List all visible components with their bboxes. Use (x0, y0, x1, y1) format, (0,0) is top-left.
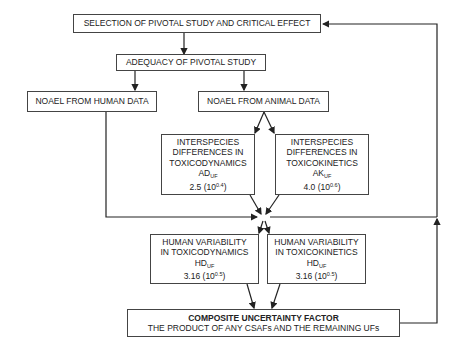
exponent: 0.5 (215, 271, 223, 277)
interspecies-td-line2: DIFFERENCES IN (173, 147, 244, 158)
abbr: AK (313, 168, 324, 178)
human-td-value: 3.16 (100.5) (184, 271, 226, 282)
interspecies-td-line3: TOXICODYNAMICS (169, 158, 246, 169)
selection-box: SELECTION OF PIVOTAL STUDY AND CRITICAL … (73, 14, 321, 33)
value: 3.16 (10 (296, 271, 327, 281)
noael-animal-label: NOAEL FROM ANIMAL DATA (207, 96, 320, 107)
noael-human-box: NOAEL FROM HUMAN DATA (27, 91, 157, 112)
interspecies-td-abbr: ADUF (198, 168, 217, 182)
interspecies-tk-line1: INTERSPECIES (291, 137, 353, 148)
interspecies-td-value: 2.5 (100.4) (190, 182, 227, 193)
composite-box: COMPOSITE UNCERTAINTY FACTOR THE PRODUCT… (127, 309, 400, 337)
value: 2.5 (10 (190, 182, 216, 192)
adequacy-box: ADEQUACY OF PIVOTAL STUDY (116, 54, 266, 71)
abbr: HD (307, 258, 319, 268)
close-paren: ) (224, 182, 227, 192)
composite-subtitle: THE PRODUCT OF ANY CSAFs AND THE REMAINI… (148, 323, 379, 334)
interspecies-tk-value: 4.0 (100.6) (304, 182, 341, 193)
interspecies-tk-abbr: AKUF (313, 168, 332, 182)
human-td-line1: HUMAN VARIABILITY (162, 237, 246, 248)
human-td-box: HUMAN VARIABILITY IN TOXICODYNAMICS HDUF… (150, 234, 259, 284)
interspecies-tk-box: INTERSPECIES DIFFERENCES IN TOXICOKINETI… (275, 134, 369, 195)
interspecies-td-line1: INTERSPECIES (177, 137, 239, 148)
value: 3.16 (10 (184, 271, 215, 281)
adequacy-label: ADEQUACY OF PIVOTAL STUDY (126, 57, 256, 68)
interspecies-tk-line3: TOXICOKINETICS (286, 158, 358, 169)
abbr-sub: UF (210, 173, 217, 179)
noael-animal-box: NOAEL FROM ANIMAL DATA (198, 91, 329, 112)
human-tk-abbr: HDUF (307, 258, 327, 272)
human-td-line2: IN TOXICODYNAMICS (160, 247, 248, 258)
human-tk-box: HUMAN VARIABILITY IN TOXICOKINETICS HDUF… (267, 234, 366, 284)
exponent: 0.4 (216, 182, 224, 188)
composite-title: COMPOSITE UNCERTAINTY FACTOR (188, 313, 339, 324)
interspecies-td-box: INTERSPECIES DIFFERENCES IN TOXICODYNAMI… (161, 134, 255, 195)
human-td-abbr: HDUF (195, 258, 215, 272)
noael-human-label: NOAEL FROM HUMAN DATA (35, 96, 148, 107)
human-tk-value: 3.16 (100.5) (296, 271, 338, 282)
close-paren: ) (338, 182, 341, 192)
interspecies-tk-line2: DIFFERENCES IN (287, 147, 358, 158)
exponent: 0.5 (327, 271, 335, 277)
abbr: AD (198, 168, 210, 178)
human-tk-line2: IN TOXICOKINETICS (275, 247, 357, 258)
selection-label: SELECTION OF PIVOTAL STUDY AND CRITICAL … (84, 18, 311, 29)
human-tk-line1: HUMAN VARIABILITY (274, 237, 358, 248)
close-paren: ) (335, 271, 338, 281)
abbr: HD (195, 258, 207, 268)
close-paren: ) (223, 271, 226, 281)
exponent: 0.6 (330, 182, 338, 188)
abbr-sub: UF (324, 173, 331, 179)
value: 4.0 (10 (304, 182, 330, 192)
abbr-sub: UF (207, 263, 214, 269)
abbr-sub: UF (319, 263, 326, 269)
